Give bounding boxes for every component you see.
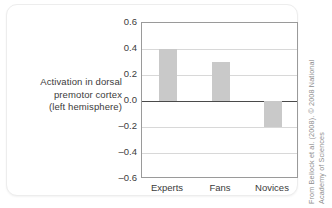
y-tick-label: –0.6 (107, 173, 137, 183)
x-axis-category-labels: ExpertsFansNovices (141, 182, 298, 196)
y-tick-label: 0.2 (107, 69, 137, 79)
bar (159, 49, 177, 101)
y-tick-label: 0.0 (107, 95, 137, 105)
bar (212, 62, 230, 101)
gridline (142, 127, 297, 128)
source-credit: From Beilock et al. (2008). © 2008 Natio… (301, 0, 332, 208)
bar (264, 101, 282, 127)
y-axis-tick-labels: 0.60.40.20.0–0.2–0.4–0.6 (105, 0, 137, 208)
gridline (142, 153, 297, 154)
y-tick-label: –0.4 (107, 147, 137, 157)
x-category-label: Fans (209, 182, 230, 193)
x-category-label: Novices (255, 182, 289, 193)
source-credit-line-1: From Beilock et al. (2008). © 2008 Natio… (307, 4, 317, 204)
plot-area (141, 22, 298, 178)
figure-container: Activation in dorsal premotor cortex (le… (0, 0, 332, 208)
x-category-label: Experts (151, 182, 183, 193)
y-tick-label: 0.6 (107, 17, 137, 27)
y-tick-label: 0.4 (107, 43, 137, 53)
y-tick-label: –0.2 (107, 121, 137, 131)
source-credit-line-2: Academy of Sciences (317, 4, 327, 204)
